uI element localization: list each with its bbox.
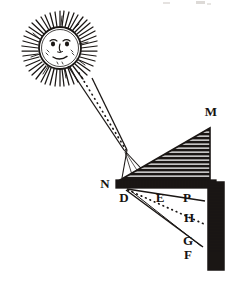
label-P: P	[183, 190, 191, 205]
label-M: M	[205, 104, 217, 119]
label-E: E	[156, 190, 165, 205]
prism-refraction-figure: M N D E P H G F	[0, 0, 236, 281]
sun-face	[46, 40, 74, 64]
label-G: G	[183, 233, 193, 248]
label-D: D	[119, 190, 128, 205]
label-F: F	[184, 247, 192, 262]
vertical-screen-bar	[208, 182, 224, 270]
base-support-bar	[116, 180, 216, 188]
sun	[22, 11, 97, 86]
label-H: H	[184, 210, 194, 225]
beam-axis-dotted	[79, 73, 126, 150]
triangular-prism	[118, 128, 212, 180]
partial-header-marks	[163, 1, 211, 5]
figure-root: M N D E P H G F	[0, 0, 236, 281]
label-N: N	[100, 176, 110, 191]
